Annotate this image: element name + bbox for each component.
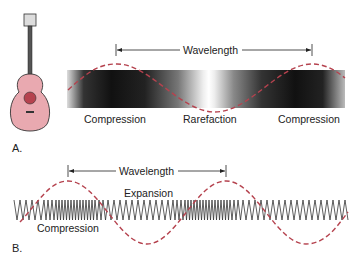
spring-icon [14,200,348,220]
rarefaction-label: Rarefaction [183,113,237,125]
panel-a-label: A. [12,142,22,154]
panel-b-label: B. [12,242,22,254]
compression-label-b: Compression [37,222,99,234]
compression-label-a-1: Compression [84,113,146,125]
wavelength-label-a: Wavelength [183,44,238,56]
compression-label-a-2: Compression [278,113,340,125]
wavelength-label-b: Wavelength [119,165,174,177]
expansion-label: Expansion [124,187,173,199]
